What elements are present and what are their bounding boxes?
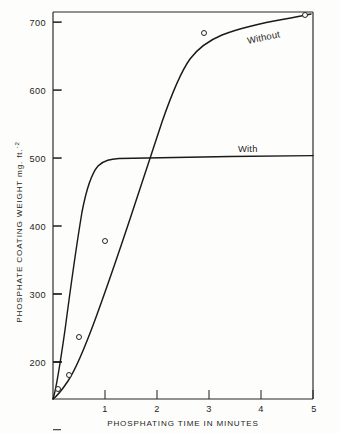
y-ticklabel-600: 600 (29, 86, 46, 96)
chart-background (0, 0, 340, 433)
x-ticklabel-1: 1 (102, 404, 108, 414)
series-label-with: With (238, 143, 258, 154)
x-ticklabel-5: 5 (311, 404, 317, 414)
y-ticklabel-700: 700 (29, 18, 46, 28)
y-axis-title-superscript: -2 (13, 141, 20, 148)
data-point-marker (103, 239, 108, 244)
y-axis-title-group: PHOSPHATE COATING WEIGHT mg. ft.-2 (13, 141, 24, 322)
x-ticklabel-4: 4 (258, 404, 264, 414)
data-point-marker (67, 373, 72, 378)
data-point-marker (303, 13, 308, 18)
y-ticklabel-200: 200 (29, 358, 46, 368)
y-ticklabel-400: 400 (29, 222, 46, 232)
x-axis-title: PHOSPHATING TIME IN MINUTES (107, 419, 259, 428)
x-ticklabel-2: 2 (154, 404, 160, 414)
y-ticklabel-500: 500 (29, 154, 46, 164)
y-axis-title-text: PHOSPHATE COATING WEIGHT mg. ft. (15, 148, 24, 322)
y-ticklabel-300: 300 (29, 290, 46, 300)
chart-svg: 700 600 500 400 300 200 1 2 3 4 5 (0, 0, 340, 433)
data-point-marker (77, 335, 82, 340)
data-point-marker (56, 387, 61, 392)
data-point-marker (202, 31, 207, 36)
phosphate-coating-weight-chart: 700 600 500 400 300 200 1 2 3 4 5 (0, 0, 340, 433)
y-axis-title: PHOSPHATE COATING WEIGHT mg. ft.-2 (13, 141, 24, 322)
x-ticklabel-3: 3 (206, 404, 212, 414)
